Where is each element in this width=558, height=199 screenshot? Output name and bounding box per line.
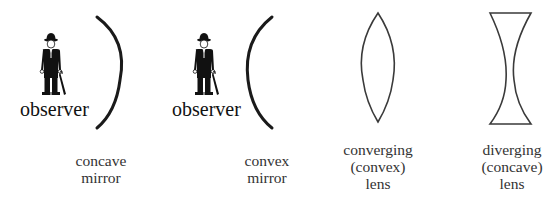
- caption-line: diverging: [472, 141, 552, 158]
- convex-mirror-icon: [247, 17, 272, 128]
- observer-label-2: observer: [172, 99, 241, 119]
- observer-figure-1: [40, 33, 66, 95]
- observer-figure-2: [193, 33, 219, 95]
- caption-line: (concave): [472, 158, 552, 175]
- caption-line: mirror: [66, 169, 136, 186]
- converging-lens-caption: converging (convex) lens: [338, 141, 418, 192]
- concave-mirror-icon: [97, 17, 122, 128]
- caption-line: lens: [338, 175, 418, 192]
- converging-lens-icon: [361, 13, 394, 122]
- convex-mirror-caption: convex mirror: [237, 152, 297, 186]
- caption-line: (convex): [338, 158, 418, 175]
- caption-line: concave: [66, 152, 136, 169]
- caption-line: mirror: [237, 169, 297, 186]
- observer-label-1: observer: [20, 99, 89, 119]
- caption-line: converging: [338, 141, 418, 158]
- diverging-lens-caption: diverging (concave) lens: [472, 141, 552, 192]
- diverging-lens-icon: [490, 13, 531, 124]
- caption-line: lens: [472, 175, 552, 192]
- caption-line: convex: [237, 152, 297, 169]
- concave-mirror-caption: concave mirror: [66, 152, 136, 186]
